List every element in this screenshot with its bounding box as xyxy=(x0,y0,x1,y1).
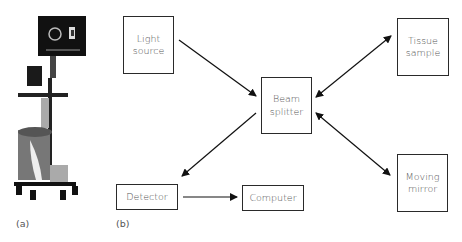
node-beam-splitter: Beam splitter xyxy=(261,77,312,134)
node-computer: Computer xyxy=(242,185,304,211)
arrow-splitter-tissue xyxy=(316,36,391,97)
node-moving-mirror: Moving mirror xyxy=(397,154,448,212)
node-label: Moving mirror xyxy=(406,171,440,196)
node-label: Tissue sample xyxy=(406,35,441,60)
arrow-light-to-splitter xyxy=(179,40,256,96)
node-label: Beam splitter xyxy=(270,93,303,118)
node-label: Detector xyxy=(126,191,167,204)
node-label: Computer xyxy=(249,192,296,205)
arrow-splitter-to-detector xyxy=(182,113,256,176)
node-detector: Detector xyxy=(116,184,178,210)
node-tissue-sample: Tissue sample xyxy=(397,18,449,76)
node-label: Light source xyxy=(133,33,165,58)
diagram-arrows xyxy=(0,0,462,242)
arrow-splitter-mirror xyxy=(316,113,390,175)
node-light-source: Light source xyxy=(123,16,174,74)
panel-b-label: (b) xyxy=(116,218,129,229)
